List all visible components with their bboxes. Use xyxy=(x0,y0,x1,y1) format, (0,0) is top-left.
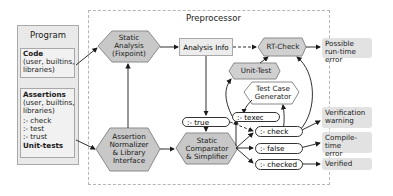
comparator-label-3: & Simplifier xyxy=(180,153,234,161)
texec-pill: :- texec xyxy=(232,112,280,122)
true-pill: :- true xyxy=(182,117,230,127)
possible-runtime-error-output: Possible run-time error xyxy=(322,38,372,58)
false-pill: :- false xyxy=(255,143,303,154)
verified-output: Verified xyxy=(322,158,372,170)
analysis-info-node: Analysis Info xyxy=(179,38,233,56)
checked-pill: :- checked xyxy=(255,159,303,170)
rt-check-label: RT-Check xyxy=(262,43,304,51)
compile-error-line-1: Compile-time xyxy=(325,134,369,150)
static-analysis-label-3: (Fixpoint) xyxy=(104,50,154,58)
verification-warning-output: Verification warning xyxy=(322,107,372,128)
tcg-label-2: Generator xyxy=(250,93,296,101)
check-pill: :- check xyxy=(255,126,303,137)
compile-time-error-output: Compile-time error xyxy=(322,132,372,153)
normalizer-label-4: Interface xyxy=(104,157,154,165)
verified-label: Verified xyxy=(325,160,369,168)
unit-test-label: Unit-Test xyxy=(233,67,279,75)
runtime-error-line-2: run-time error xyxy=(325,48,369,64)
verification-warning-line-2: warning xyxy=(325,117,369,125)
